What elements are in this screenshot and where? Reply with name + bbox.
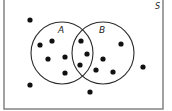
element-dot bbox=[45, 56, 50, 61]
venn-diagram: A B S bbox=[0, 0, 172, 111]
set-a-label: A bbox=[57, 25, 64, 35]
element-dot bbox=[27, 17, 32, 22]
element-dot bbox=[84, 51, 89, 56]
element-dot bbox=[87, 89, 92, 94]
element-dot bbox=[27, 82, 32, 87]
universal-set-label: S bbox=[155, 2, 160, 11]
element-dot bbox=[77, 62, 82, 67]
element-points bbox=[27, 17, 145, 94]
element-dot bbox=[37, 42, 42, 47]
element-dot bbox=[62, 70, 67, 75]
set-b-label: B bbox=[99, 25, 105, 35]
element-dot bbox=[110, 69, 115, 74]
element-dot bbox=[62, 54, 67, 59]
element-dot bbox=[78, 38, 83, 43]
element-dot bbox=[93, 67, 98, 72]
element-dot bbox=[118, 41, 123, 46]
element-dot bbox=[100, 56, 105, 61]
universal-set-frame bbox=[4, 0, 163, 109]
element-dot bbox=[49, 38, 54, 43]
element-dot bbox=[140, 64, 145, 69]
